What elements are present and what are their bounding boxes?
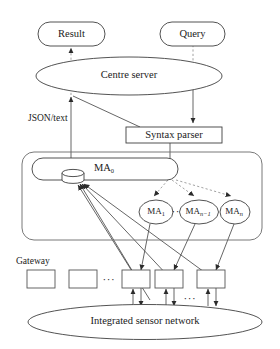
gateway-box-3[interactable] (122, 270, 150, 288)
node-ma1[interactable]: MA1 (139, 200, 173, 224)
node-centre-server[interactable]: Centre server (36, 57, 222, 95)
node-ma-n-minus-1[interactable]: MAn−1 (180, 200, 219, 224)
node-ma0[interactable]: MA0 (32, 158, 178, 180)
node-centre-server-label: Centre server (101, 69, 158, 80)
architecture-diagram: Result Query Centre server JSON/text Syn… (0, 0, 280, 349)
gateway-row-ellipsis: ··· (103, 273, 116, 285)
node-result-label: Result (58, 28, 85, 39)
node-syntax-parser[interactable]: Syntax parser (126, 127, 222, 143)
gateway-box-2[interactable] (69, 270, 97, 288)
gateway-row: ··· (27, 270, 225, 288)
node-ma-n[interactable]: MAn (220, 200, 250, 224)
edge-ma1-to-gateway3 (141, 224, 150, 270)
sensor-row-ellipsis: ··· (184, 292, 197, 304)
node-syntax-parser-label: Syntax parser (145, 129, 203, 140)
edge-gateway4-to-sensor-network (166, 288, 174, 306)
edge-ma0-to-ma1 (154, 180, 168, 196)
json-text-label: JSON/text (28, 113, 68, 123)
edge-gateway5-to-sensor-network (208, 288, 216, 306)
diagram-canvas: Result Query Centre server JSON/text Syn… (0, 0, 280, 349)
gateway-box-5[interactable] (197, 270, 225, 288)
database-cylinder-icon[interactable] (62, 169, 84, 183)
gateway-label: Gateway (16, 256, 50, 266)
node-integrated-sensor-network-label: Integrated sensor network (90, 315, 200, 326)
gateway-box-1[interactable] (27, 270, 55, 288)
node-integrated-sensor-network[interactable]: Integrated sensor network (28, 305, 262, 340)
gateway-box-4[interactable] (155, 270, 183, 288)
edge-syntax-parser-to-centre-server-diagonal (73, 96, 140, 127)
node-query-label: Query (179, 28, 206, 39)
edge-gateway3-to-database (80, 184, 136, 277)
edge-gateway4-to-database (82, 184, 169, 277)
edge-ma0-to-ma-n-minus-1 (172, 180, 194, 196)
edge-gateway3-to-sensor-network (133, 288, 141, 306)
node-result[interactable]: Result (38, 22, 105, 46)
node-query[interactable]: Query (160, 22, 225, 46)
edge-ma-n-to-gateway5 (216, 224, 234, 270)
edge-ma0-to-ma-n (176, 180, 231, 196)
